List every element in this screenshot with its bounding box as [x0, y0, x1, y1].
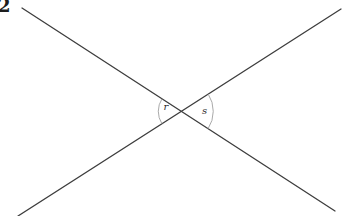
- angle-arc-s: [208, 94, 213, 129]
- angle-label-s: s: [202, 105, 207, 116]
- angle-label-r: r: [164, 101, 170, 112]
- geometry-figure: r s: [0, 0, 348, 216]
- intersecting-line-1: [22, 8, 335, 211]
- figure-canvas: 2 r s: [0, 0, 348, 216]
- intersecting-line-2: [18, 9, 341, 216]
- angle-arc-r: [158, 99, 162, 124]
